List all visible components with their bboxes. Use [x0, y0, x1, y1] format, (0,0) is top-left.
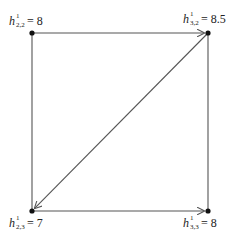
node-variable: h	[183, 12, 189, 26]
edges-layer	[32, 33, 208, 211]
node-superscript: 1	[16, 215, 20, 222]
equals-sign: =	[27, 216, 34, 230]
node-value: 8	[211, 216, 217, 230]
node-label-bottom-left: h12,3= 7	[9, 217, 43, 231]
node-value: 8	[37, 14, 43, 28]
node-value: 7	[37, 216, 43, 230]
node-top-right	[205, 30, 210, 35]
edge-top-right-to-bottom-left	[35, 33, 208, 208]
node-label-top-right: h13,2= 8.5	[183, 13, 226, 27]
node-variable: h	[9, 14, 15, 28]
node-bottom-left	[29, 208, 34, 213]
node-superscript: 1	[190, 11, 194, 18]
node-subscript: 2,3	[16, 224, 25, 231]
equals-sign: =	[27, 14, 34, 28]
node-subscript: 3,3	[190, 224, 199, 231]
node-superscript: 1	[190, 215, 194, 222]
node-variable: h	[183, 216, 189, 230]
node-value: 8.5	[211, 12, 226, 26]
node-label-bottom-right: h13,3= 8	[183, 217, 217, 231]
equals-sign: =	[201, 216, 208, 230]
node-label-top-left: h12,2= 8	[9, 15, 43, 29]
node-variable: h	[9, 216, 15, 230]
node-graph	[0, 0, 241, 236]
node-superscript: 1	[16, 13, 20, 20]
node-bottom-right	[205, 208, 210, 213]
node-top-left	[29, 30, 34, 35]
equals-sign: =	[201, 12, 208, 26]
node-subscript: 2,2	[16, 22, 25, 29]
node-subscript: 3,2	[190, 20, 199, 27]
